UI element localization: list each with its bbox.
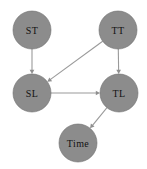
node-label-sl: SL [26,88,38,99]
graph-svg: STTTSLTLTime [0,0,147,169]
arrowhead-TT-SL [47,77,52,81]
arrowhead-TT-TL [116,70,121,74]
arrowhead-SL-TL [96,91,100,96]
graph-edge [90,108,107,129]
graph-node-st[interactable]: ST [13,11,51,49]
node-label-tl: TL [112,88,125,99]
arrowhead-ST-SL [30,70,35,74]
graph-node-sl[interactable]: SL [13,74,51,112]
graph-edge [51,91,100,96]
graph-node-tl[interactable]: TL [100,74,138,112]
node-label-time: Time [67,138,90,149]
graph-edge [116,49,121,74]
edge-line-TT-SL [50,41,102,79]
graph-edge [30,49,35,74]
node-label-st: ST [26,25,38,36]
graph-node-tt[interactable]: TT [99,11,137,49]
causal-graph-figure: STTTSLTLTime [0,0,147,169]
node-label-tt: TT [111,25,124,36]
nodes-layer: STTTSLTLTime [13,11,138,162]
edge-line-TL-Time [92,108,107,126]
graph-edge [47,41,102,82]
graph-node-time[interactable]: Time [59,124,97,162]
